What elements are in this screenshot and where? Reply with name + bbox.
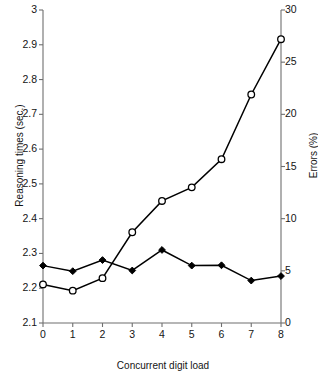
plot-canvas [0,0,318,382]
data-point-marker [159,198,166,205]
data-point-marker [188,262,195,269]
data-point-marker [248,91,255,98]
data-point-marker [40,281,47,288]
data-point-marker [278,36,285,43]
data-point-marker [69,287,76,294]
data-point-marker [248,277,255,284]
data-point-marker [218,262,225,269]
data-point-marker [278,273,285,280]
chart-figure: Reasoning times (sec.) Errors (%) Concur… [0,0,318,382]
data-point-marker [69,268,76,275]
data-point-marker [218,156,225,163]
data-point-marker [99,275,106,282]
series-line [43,250,281,281]
data-point-marker [188,184,195,191]
series-layer [40,36,285,294]
data-point-marker [99,257,106,264]
data-point-marker [129,229,136,236]
data-point-marker [40,262,47,269]
